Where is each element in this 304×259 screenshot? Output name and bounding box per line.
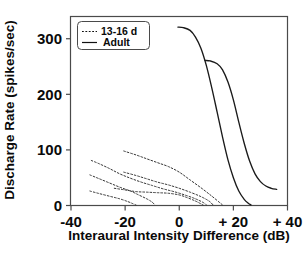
series-curve bbox=[124, 151, 223, 205]
series-curves bbox=[90, 27, 277, 205]
series-curve bbox=[124, 172, 213, 205]
x-axis-ticks bbox=[71, 206, 288, 211]
chart-page: -40-200+ 20+ 40 0100200300 Interaural In… bbox=[0, 0, 304, 259]
series-curve bbox=[205, 60, 277, 189]
y-tick-label: 0 bbox=[54, 197, 62, 214]
series-curve bbox=[90, 191, 136, 205]
y-tick-label: 200 bbox=[37, 86, 62, 103]
x-tick-label: -40 bbox=[60, 213, 82, 230]
chart-legend: 13-16 d Adult bbox=[78, 22, 150, 50]
x-axis-title: Interaural Intensity Difference (dB) bbox=[68, 228, 289, 243]
series-curve bbox=[178, 27, 251, 205]
x-tick-label: 0 bbox=[175, 213, 183, 230]
legend-label-adult: Adult bbox=[103, 36, 130, 48]
y-tick-label: 300 bbox=[37, 30, 62, 47]
x-tick-label: + 40 bbox=[273, 213, 303, 230]
y-axis-title: Discharge Rate (spikes/sec) bbox=[2, 20, 17, 199]
x-tick-label: + 20 bbox=[219, 213, 249, 230]
y-tick-label: 100 bbox=[37, 141, 62, 158]
discharge-rate-chart: -40-200+ 20+ 40 0100200300 Interaural In… bbox=[0, 0, 304, 259]
x-axis-tick-labels: -40-200+ 20+ 40 bbox=[60, 213, 302, 230]
y-axis-tick-labels: 0100200300 bbox=[37, 30, 62, 214]
x-tick-label: -20 bbox=[114, 213, 136, 230]
